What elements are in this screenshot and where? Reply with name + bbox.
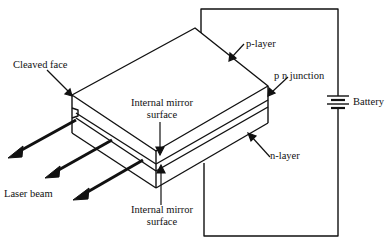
label-pn-junction: p n junction bbox=[274, 70, 324, 82]
label-battery: Battery bbox=[353, 96, 384, 108]
circuit-wire-lower bbox=[204, 108, 338, 236]
label-cleaved-face: Cleaved face bbox=[13, 59, 68, 71]
battery-icon bbox=[327, 96, 349, 108]
label-internal-mirror-bottom: Internal mirror surface bbox=[122, 204, 202, 228]
label-laser-beam: Laser beam bbox=[4, 188, 53, 200]
label-n-layer: n-layer bbox=[270, 150, 300, 162]
p-layer-top-face bbox=[72, 28, 268, 151]
label-internal-mirror-top: Internal mirror surface bbox=[122, 97, 202, 121]
label-p-layer: p-layer bbox=[246, 38, 276, 50]
